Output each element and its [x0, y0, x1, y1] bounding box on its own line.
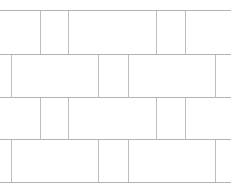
head-joint-group: [12, 11, 216, 183]
bed-joint-group: [0, 11, 231, 183]
brick-pattern-svg: [0, 0, 231, 190]
brick-pattern-diagram: [0, 0, 231, 190]
